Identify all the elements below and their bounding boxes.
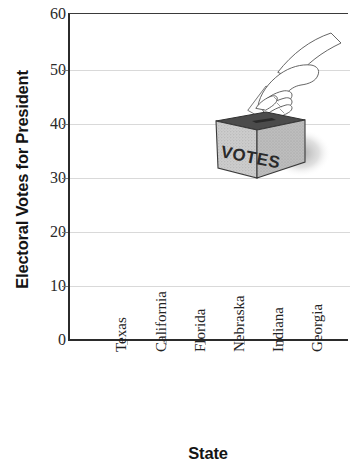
gridline-40 [70,124,350,125]
y-tick-label-20: 20 [32,224,66,240]
gridline-10 [70,286,350,287]
x-category-label-georgia: Georgia [309,262,326,352]
x-category-label-california: California [153,262,170,352]
y-tick-label-60: 60 [32,6,66,22]
y-tick-label-10: 10 [32,278,66,294]
gridline-20 [70,232,350,233]
x-category-label-indiana: Indiana [270,262,287,352]
y-tick-label-40: 40 [32,116,66,132]
x-category-label-florida: Florida [192,262,209,352]
y-tick-label-50: 50 [32,62,66,78]
gridline-50 [70,70,350,71]
x-axis-title: State [68,444,348,463]
y-tick-label-30: 30 [32,170,66,186]
x-category-label-nebraska: Nebraska [231,262,248,352]
y-axis-title: Electoral Votes for President [13,20,32,340]
y-tick-label-0: 0 [32,332,66,348]
gridline-30 [70,178,350,179]
x-category-label-texas: Texas [113,262,130,352]
